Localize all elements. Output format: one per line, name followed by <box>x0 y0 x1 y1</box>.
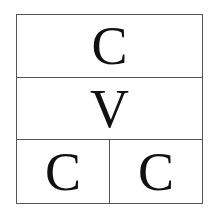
coda-row: C C <box>17 140 202 203</box>
nucleus-cell: V <box>17 78 202 139</box>
coda-cell-left: C <box>17 140 110 203</box>
nucleus-row: V <box>17 78 202 140</box>
syllable-diagram: C V C C <box>16 14 203 204</box>
onset-row: C <box>17 15 202 78</box>
coda-cell-right: C <box>110 140 202 203</box>
onset-cell: C <box>17 15 202 77</box>
